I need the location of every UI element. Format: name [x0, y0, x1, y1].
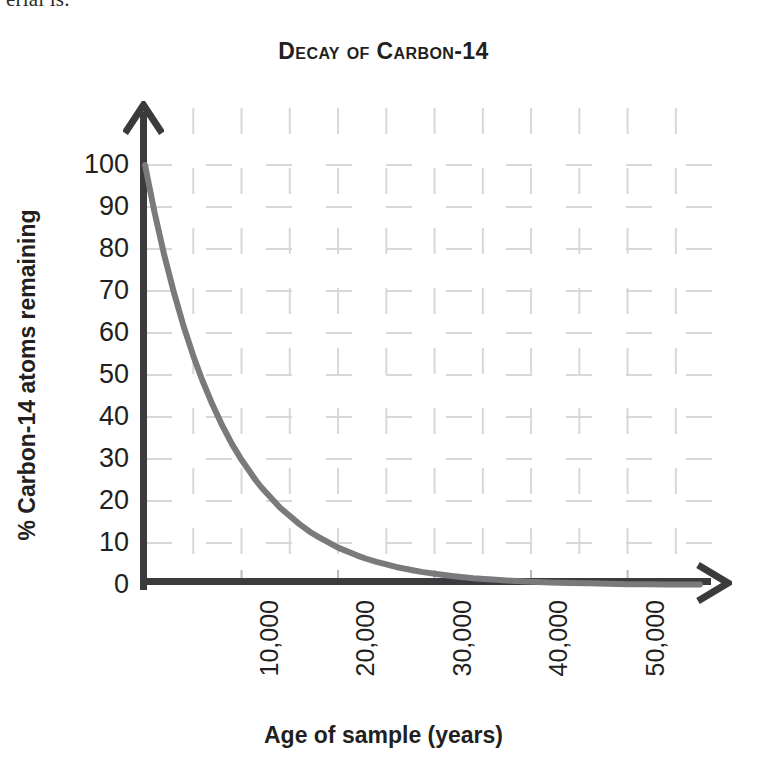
- x-axis-tick-label: 10,000: [255, 600, 284, 730]
- y-axis-title: % Carbon-14 atoms remaining: [14, 165, 54, 585]
- x-axis-title: Age of sample (years): [0, 722, 767, 749]
- x-axis-tick-labels: 10,00020,00030,00040,00050,000: [0, 0, 767, 772]
- carbon-14-decay-chart: Decay of Carbon-14 010203040506070809010…: [0, 0, 767, 772]
- x-axis-tick-label: 30,000: [448, 600, 477, 730]
- x-axis-tick-label: 20,000: [351, 600, 380, 730]
- x-axis-tick-label: 40,000: [544, 600, 573, 730]
- x-axis-tick-label: 50,000: [641, 600, 670, 730]
